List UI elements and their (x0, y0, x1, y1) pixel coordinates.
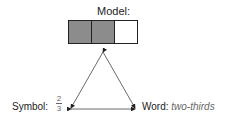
symbol-label: Symbol: (12, 101, 48, 112)
word-label: Word: (142, 101, 169, 112)
symbol-fraction: 2 3 (56, 94, 62, 113)
word-value: two-thirds (171, 101, 214, 112)
fraction-denominator: 3 (57, 104, 61, 113)
arrow-model-symbol (71, 52, 103, 108)
arrow-model-word (103, 52, 135, 108)
fraction-numerator: 2 (57, 94, 61, 103)
word-block: Word: two-thirds (142, 101, 215, 112)
